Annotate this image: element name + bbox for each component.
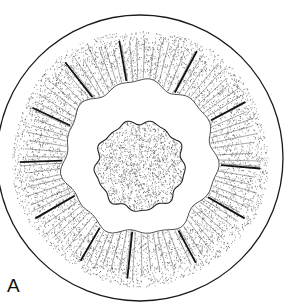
panel-label: A [7, 276, 20, 295]
stippled-ring [13, 32, 269, 287]
cross-section-illustration [0, 0, 284, 303]
ring-inner-edge [61, 79, 220, 233]
core-outline [94, 121, 185, 211]
